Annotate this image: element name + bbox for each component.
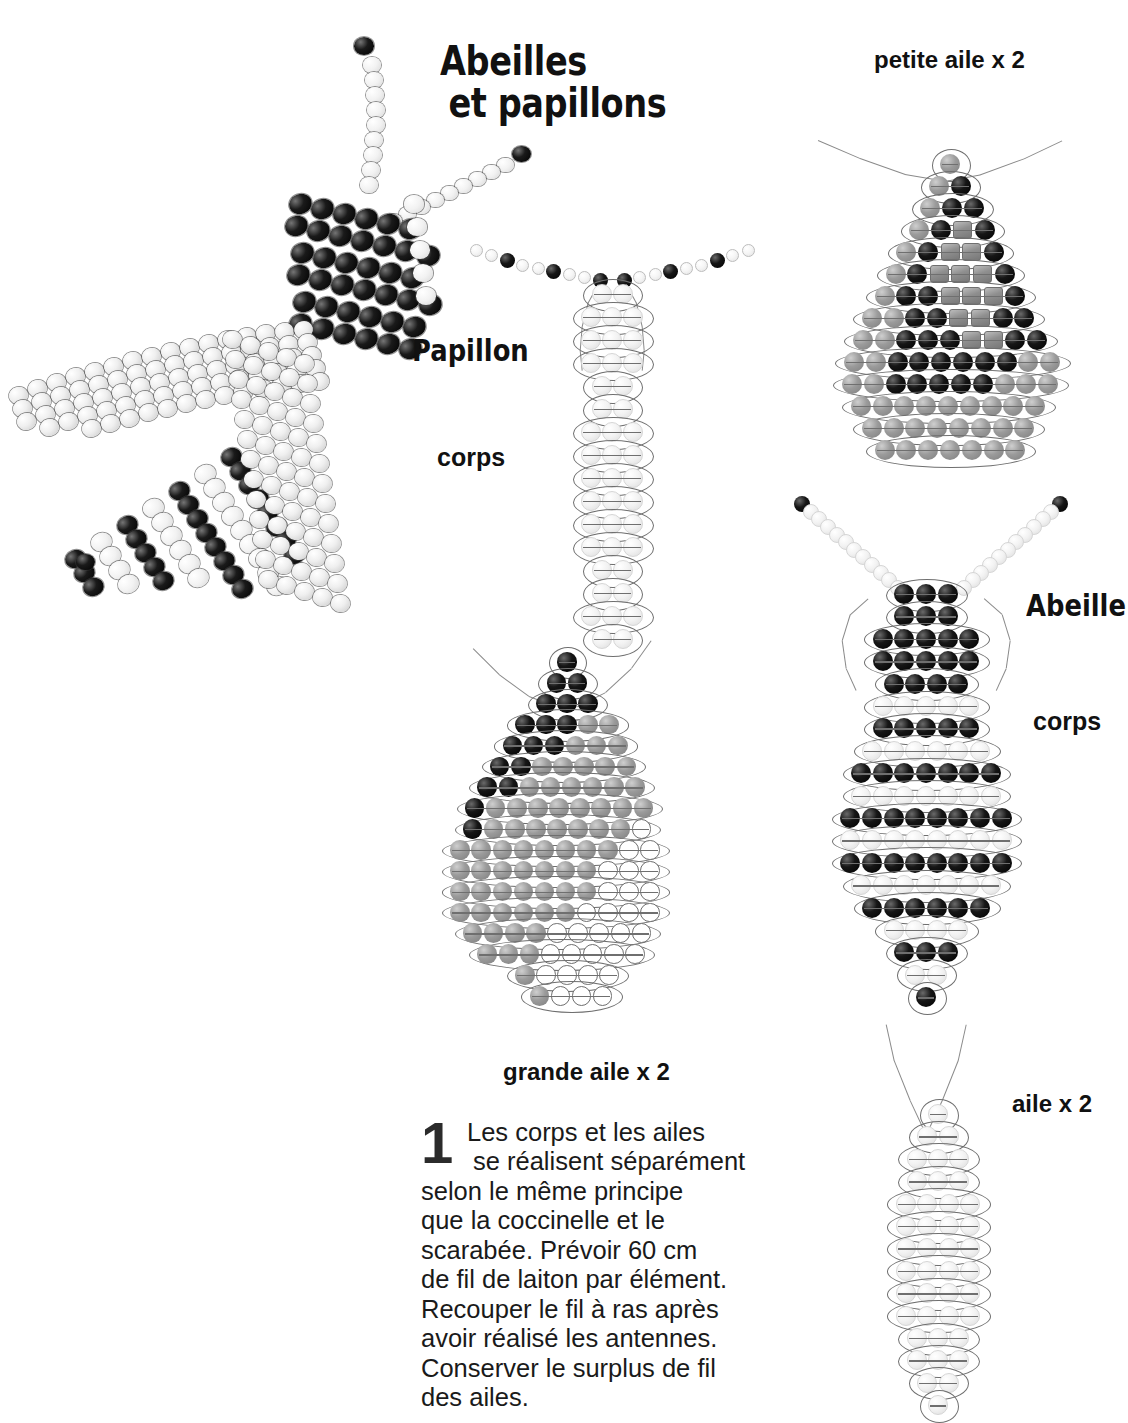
bead-antenna xyxy=(695,259,708,272)
photo-bead-white xyxy=(293,581,314,600)
label-papillon-corps: corps xyxy=(437,443,505,472)
row-wire xyxy=(549,683,586,684)
row-wire xyxy=(583,432,641,433)
photo-bead-white xyxy=(293,467,314,486)
photo-bead-white xyxy=(364,147,382,163)
row-wire xyxy=(594,570,631,571)
photo-bead-white xyxy=(365,132,383,148)
photo-bead-black xyxy=(306,266,334,292)
row-wire xyxy=(930,1405,946,1406)
bead-antenna xyxy=(742,244,755,257)
bead-antenna xyxy=(516,259,529,272)
row-wire xyxy=(467,808,651,809)
bead-antenna xyxy=(680,262,693,275)
photo-bead-white xyxy=(257,455,278,474)
row-wire xyxy=(875,706,977,707)
row-wire xyxy=(886,684,967,685)
photo-bead-black xyxy=(310,244,338,270)
photo-bead-white xyxy=(314,493,335,512)
photo-bead-black xyxy=(290,288,318,314)
wire-leg xyxy=(841,641,846,669)
bead-antenna xyxy=(578,271,591,284)
photo-bead-white xyxy=(302,527,323,546)
wire-hanger xyxy=(499,674,530,697)
photo-bead-white xyxy=(323,553,344,572)
row-wire xyxy=(909,1181,968,1182)
photo-bead-white xyxy=(404,195,424,213)
label-aile: aile x 2 xyxy=(1012,1090,1092,1118)
photo-bead-black xyxy=(374,330,402,356)
wire-hanger xyxy=(605,668,632,693)
row-wire xyxy=(909,1360,968,1361)
beaded-bee-photo xyxy=(0,30,420,590)
row-wire xyxy=(853,885,999,886)
wire-hanger xyxy=(957,1024,966,1060)
photo-bead-white xyxy=(236,429,257,448)
page-title-line2: et papillons xyxy=(440,82,692,124)
row-wire xyxy=(896,952,955,953)
row-wire xyxy=(877,296,1024,297)
bead-antenna xyxy=(500,253,515,268)
row-wire xyxy=(594,593,631,594)
photo-bead-black xyxy=(332,249,360,275)
photo-bead-white xyxy=(272,441,293,460)
photo-bead-white xyxy=(251,415,272,434)
wire-leg xyxy=(841,614,850,640)
row-wire xyxy=(864,908,988,909)
step-line-4: que la coccinelle et le xyxy=(421,1206,751,1235)
photo-bead-white xyxy=(366,87,384,103)
label-petite-aile: petite aile x 2 xyxy=(874,46,1025,74)
row-wire xyxy=(583,501,641,502)
photo-bead-black xyxy=(372,281,400,307)
row-wire xyxy=(479,787,642,788)
step-number: 1 xyxy=(421,1120,453,1166)
row-wire xyxy=(898,252,1001,253)
photo-bead-black xyxy=(512,146,531,163)
row-wire xyxy=(583,616,641,617)
photo-bead-white xyxy=(311,587,332,606)
row-wire xyxy=(909,1338,968,1339)
photo-bead-white xyxy=(275,461,296,480)
row-wire xyxy=(846,362,1058,363)
label-grande-aile: grande aile x 2 xyxy=(503,1058,670,1086)
photo-bead-white xyxy=(281,501,302,520)
bead-antenna xyxy=(663,264,678,279)
photo-bead-black xyxy=(308,195,336,221)
label-abeille-corps: corps xyxy=(1033,707,1101,736)
row-wire xyxy=(583,455,641,456)
row-wire xyxy=(911,230,992,231)
bead-antenna xyxy=(532,262,545,275)
row-wire xyxy=(583,317,641,318)
bead-antenna xyxy=(633,271,646,284)
row-wire xyxy=(918,997,934,998)
photo-bead-black xyxy=(304,217,332,243)
wire-hanger xyxy=(860,158,905,175)
photo-bead-black xyxy=(354,254,382,280)
bead-antenna xyxy=(563,268,576,281)
row-wire xyxy=(898,1271,978,1272)
photo-bead-white xyxy=(363,57,381,73)
bead-antenna xyxy=(649,268,662,281)
row-wire xyxy=(583,363,641,364)
row-wire xyxy=(888,274,1013,275)
photo-bead-white xyxy=(413,264,433,282)
photo-bead-black xyxy=(330,320,358,346)
row-wire xyxy=(583,547,641,548)
row-wire xyxy=(855,340,1045,341)
photo-bead-white xyxy=(266,401,287,420)
photo-bead-white xyxy=(416,287,436,305)
row-wire xyxy=(517,975,617,976)
photo-bead-black xyxy=(378,308,406,334)
row-wire xyxy=(875,639,977,640)
row-wire xyxy=(864,751,988,752)
row-wire xyxy=(452,871,658,872)
row-wire xyxy=(864,428,1033,429)
photo-bead-black xyxy=(376,259,404,285)
bead-antenna xyxy=(485,249,498,262)
row-wire xyxy=(504,745,625,746)
step-line-6: de fil de laiton par élément. xyxy=(421,1265,751,1294)
row-wire xyxy=(844,384,1056,385)
photo-bead-white xyxy=(287,427,308,446)
bead-antenna xyxy=(710,253,725,268)
row-wire xyxy=(492,766,634,767)
